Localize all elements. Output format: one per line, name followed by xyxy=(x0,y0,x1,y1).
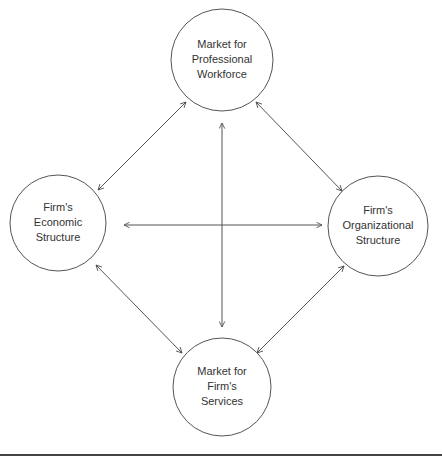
edge-economic-workforce xyxy=(98,102,186,190)
node-line: Professional xyxy=(167,52,277,67)
edge-organizational-services xyxy=(257,266,344,353)
node-line: Services xyxy=(167,394,277,409)
node-line: Firm's xyxy=(3,200,113,215)
node-services-label: Market for Firm's Services xyxy=(167,364,277,409)
node-workforce-label: Market for Professional Workforce xyxy=(167,37,277,82)
node-line: Firm's xyxy=(167,379,277,394)
node-line: Market for xyxy=(167,364,277,379)
node-organizational-label: Firm's Organizational Structure xyxy=(323,203,433,248)
edge-workforce-organizational xyxy=(256,102,342,191)
node-line: Organizational xyxy=(323,218,433,233)
node-line: Structure xyxy=(323,233,433,248)
bottom-rule xyxy=(0,454,442,456)
node-economic-label: Firm's Economic Structure xyxy=(3,200,113,245)
node-line: Workforce xyxy=(167,67,277,82)
node-line: Economic xyxy=(3,215,113,230)
node-line: Firm's xyxy=(323,203,433,218)
node-line: Structure xyxy=(3,230,113,245)
node-line: Market for xyxy=(167,37,277,52)
edge-economic-services xyxy=(96,265,182,353)
